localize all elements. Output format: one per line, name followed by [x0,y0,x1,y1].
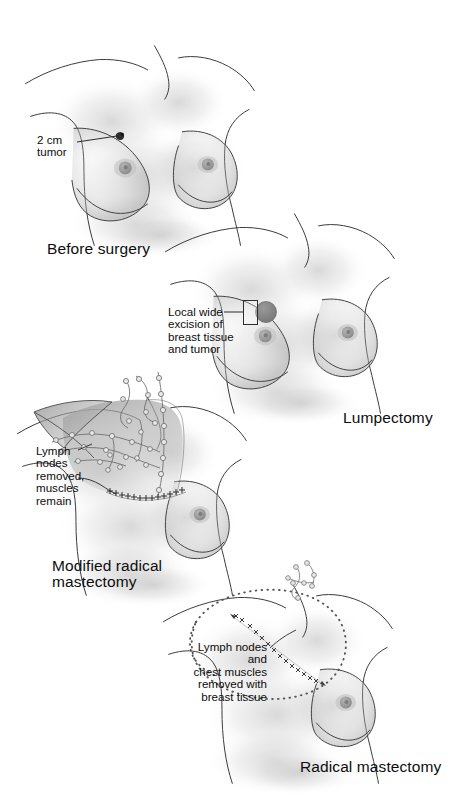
caption-before-surgery: Before surgery [47,240,150,257]
lymph-node-chain [286,561,317,601]
breast-surgery-figure: 2 cm tumor Before surgery Local wide exc… [0,0,455,811]
annotation-tumor: 2 cm tumor [37,134,67,159]
caption-radical-mastectomy: Radical mastectomy [300,758,441,775]
annotation-lymph-nodes-chest-muscles: Lymph nodes and chest muscles removed wi… [155,641,267,703]
caption-modified-radical-mastectomy: Modified radical mastectomy [52,558,162,590]
annotation-lymph-nodes-removed: Lymph nodes removed, muscles remain [36,445,84,507]
caption-lumpectomy: Lumpectomy [343,409,433,426]
annotation-local-wide-excision: Local wide excision of breast tissue and… [168,306,234,356]
